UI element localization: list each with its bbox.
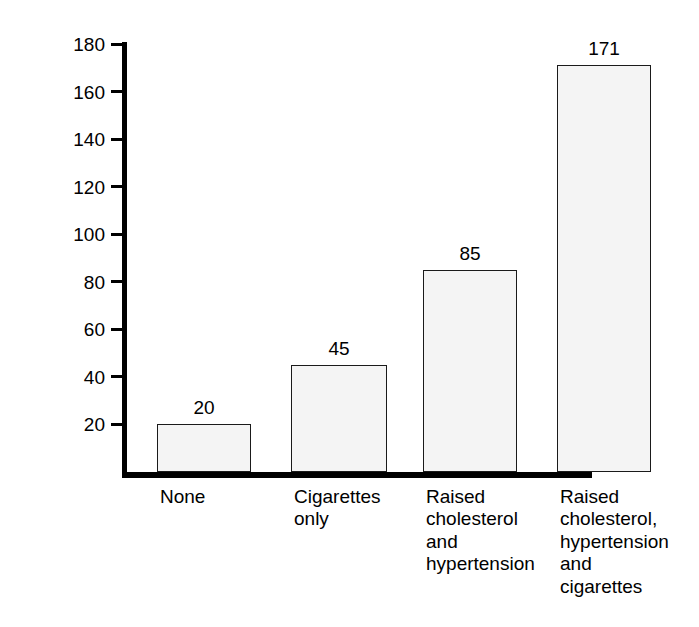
y-axis-tick-label-wrap: 20: [55, 424, 105, 425]
y-axis-tick: [111, 423, 123, 426]
x-axis-category-label: Cigarettes only: [294, 486, 381, 531]
y-axis-tick-label: 40: [84, 367, 105, 389]
bar: [291, 365, 387, 472]
y-axis-tick: [111, 138, 123, 141]
bar-value-label: 45: [291, 339, 387, 358]
y-axis-tick: [111, 43, 123, 46]
bar-value-label: 20: [157, 398, 251, 417]
y-axis-tick: [111, 328, 123, 331]
y-axis-tick-label: 20: [84, 414, 105, 436]
bar-chart: Rates per 1000 20406080100120140160180 2…: [0, 0, 699, 627]
y-axis-tick-label: 120: [73, 177, 105, 199]
plot-area: 204585171: [127, 42, 592, 472]
bar: [423, 270, 517, 472]
y-axis-tick-label-wrap: 180: [55, 44, 105, 45]
y-axis-tick-label-wrap: 120: [55, 187, 105, 188]
bar-value-label: 171: [557, 39, 651, 58]
y-axis-tick-label-wrap: 60: [55, 329, 105, 330]
bar: [157, 424, 251, 472]
y-axis-tick-label: 160: [73, 82, 105, 104]
y-axis-tick-label-wrap: 100: [55, 234, 105, 235]
y-axis-tick-label-wrap: 80: [55, 282, 105, 283]
x-axis-baseline: [122, 472, 592, 478]
y-axis-tick-label: 100: [73, 224, 105, 246]
y-axis-tick: [111, 280, 123, 283]
y-axis-tick: [111, 185, 123, 188]
y-axis-tick: [111, 375, 123, 378]
y-axis-tick-label: 140: [73, 129, 105, 151]
y-axis-tick-label-wrap: 40: [55, 377, 105, 378]
x-axis-category-label: Raised cholesterol and hypertension: [426, 486, 535, 576]
y-axis-tick: [111, 90, 123, 93]
y-axis-tick-label-wrap: 140: [55, 139, 105, 140]
y-axis-tick-label: 80: [84, 272, 105, 294]
y-axis-tick-label-wrap: 160: [55, 92, 105, 93]
y-axis-tick: [111, 233, 123, 236]
y-axis-tick-label: 180: [73, 34, 105, 56]
y-axis-tick-label: 60: [84, 319, 105, 341]
x-axis-category-label: Raised cholesterol, hypertension and cig…: [560, 486, 669, 598]
x-axis-category-label: None: [160, 486, 205, 508]
bar: [557, 65, 651, 472]
bar-value-label: 85: [423, 244, 517, 263]
